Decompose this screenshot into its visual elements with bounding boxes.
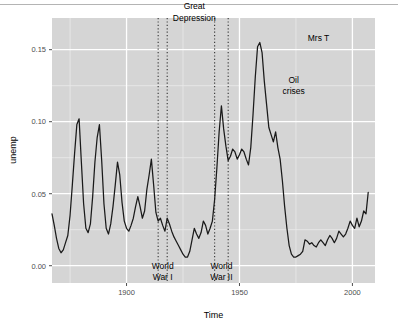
x-axis-tick-labels: 190019502000 <box>118 288 361 297</box>
annotation-line: crises <box>283 86 305 96</box>
y-tick-label-0.15: 0.15 <box>31 45 46 54</box>
y-tick-label-0.10: 0.10 <box>31 117 46 126</box>
annotation-line: Great <box>184 1 206 11</box>
annotation-great-depression: GreatDepression <box>173 1 216 23</box>
y-axis-tick-labels: 0.000.050.100.15 <box>31 45 46 270</box>
x-axis-title: Time <box>204 310 224 320</box>
annotation-world-war-ii: WorldWar II <box>210 261 232 283</box>
annotation-world-war-i: WorldWar I <box>152 261 174 283</box>
chart-canvas: 190019502000 0.000.050.100.15 GreatDepre… <box>0 0 398 329</box>
x-tick-label-1900: 1900 <box>118 288 135 297</box>
annotation-line: Depression <box>173 13 216 23</box>
unemployment-chart-figure: 190019502000 0.000.050.100.15 GreatDepre… <box>0 0 398 329</box>
annotation-line: War I <box>153 272 173 282</box>
annotation-line: Mrs T <box>308 33 330 43</box>
y-tick-label-0.05: 0.05 <box>31 190 46 199</box>
annotation-line: War II <box>210 272 232 282</box>
annotation-mrs-t: Mrs T <box>308 33 330 43</box>
annotation-line: World <box>152 261 174 271</box>
y-axis-ticks <box>49 50 52 266</box>
x-axis-ticks <box>127 283 353 286</box>
y-tick-label-0.00: 0.00 <box>31 262 46 271</box>
y-axis-title: unemp <box>8 136 18 164</box>
x-tick-label-1950: 1950 <box>231 288 248 297</box>
x-tick-label-2000: 2000 <box>344 288 361 297</box>
annotation-line: Oil <box>288 75 299 85</box>
annotation-line: World <box>210 261 232 271</box>
